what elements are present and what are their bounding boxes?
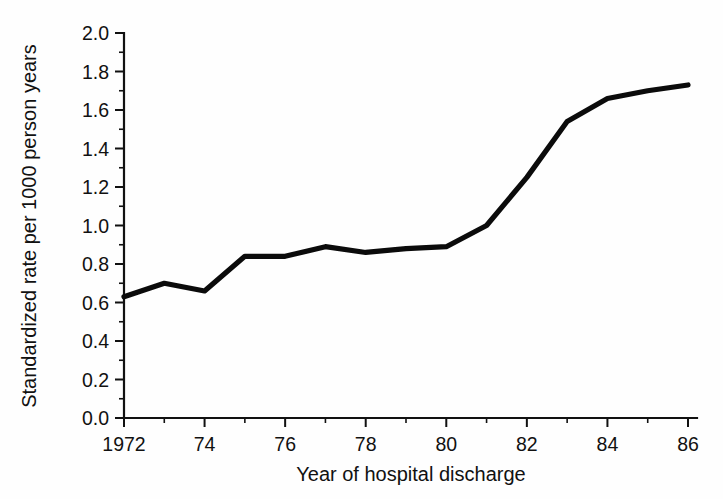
x-tick-label: 76 xyxy=(274,433,296,455)
data-series-line xyxy=(124,85,688,297)
y-tick-label: 1.6 xyxy=(82,99,109,121)
x-tick-label: 82 xyxy=(516,433,538,455)
line-chart-plot: 0.00.20.40.60.81.01.21.41.61.82.0 197274… xyxy=(0,0,723,499)
x-tick-label: 1972 xyxy=(102,433,145,455)
y-tick-label: 0.2 xyxy=(82,369,109,391)
x-tick-label: 84 xyxy=(597,433,619,455)
x-tick-label: 80 xyxy=(435,433,457,455)
y-tick-label: 0.0 xyxy=(82,407,109,429)
x-tick-label: 78 xyxy=(355,433,377,455)
chart-container: 0.00.20.40.60.81.01.21.41.61.82.0 197274… xyxy=(0,0,723,499)
x-axis-title: Year of hospital discharge xyxy=(296,463,525,485)
y-tick-label: 2.0 xyxy=(82,22,109,44)
x-tick-label: 74 xyxy=(194,433,216,455)
y-tick-label: 1.8 xyxy=(82,61,109,83)
y-axis-tick-labels: 0.00.20.40.60.81.01.21.41.61.82.0 xyxy=(82,22,109,429)
y-axis-title: Standardized rate per 1000 person years xyxy=(18,44,40,408)
x-tick-label: 86 xyxy=(677,433,699,455)
y-tick-label: 0.8 xyxy=(82,253,109,275)
y-tick-label: 1.0 xyxy=(82,215,109,237)
y-tick-label: 1.4 xyxy=(82,138,109,160)
x-axis-tick-labels: 197274767880828486 xyxy=(102,433,699,455)
y-tick-label: 1.2 xyxy=(82,176,109,198)
y-tick-label: 0.4 xyxy=(82,330,109,352)
y-tick-label: 0.6 xyxy=(82,292,109,314)
